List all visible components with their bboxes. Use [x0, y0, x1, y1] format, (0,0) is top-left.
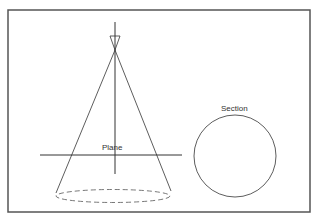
- cone-base-ellipse: [56, 190, 170, 203]
- diagram-canvas: [0, 0, 318, 224]
- cone-left-side: [56, 50, 115, 193]
- plane-label: Plane: [102, 143, 122, 152]
- cone-right-side: [115, 50, 171, 191]
- section-label: Section: [221, 104, 248, 113]
- frame-border: [8, 10, 310, 212]
- section-circle: [194, 115, 276, 197]
